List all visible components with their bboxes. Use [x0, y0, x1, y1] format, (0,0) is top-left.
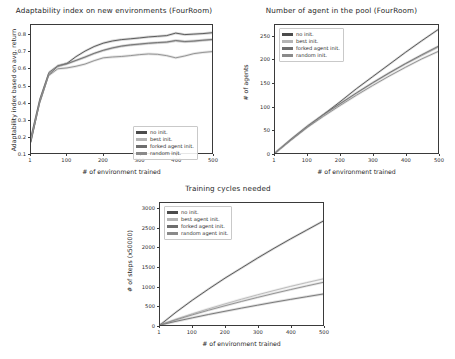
legend-item[interactable]: best init.	[136, 136, 194, 143]
legend-item[interactable]: random agent init.	[167, 230, 228, 237]
y-tick-mark	[157, 228, 159, 229]
x-tick-label: 1	[264, 157, 284, 163]
legend-item[interactable]: random init.	[282, 52, 340, 59]
x-axis-label: # of environment trained	[159, 340, 324, 347]
x-tick-mark	[66, 154, 67, 156]
y-tick-mark	[157, 208, 159, 209]
x-tick-label: 200	[330, 157, 350, 163]
legend-label: random init.	[150, 151, 181, 156]
y-tick-label: 3000	[133, 205, 155, 211]
x-tick-mark	[225, 326, 226, 328]
x-tick-mark	[324, 326, 325, 328]
x-tick-mark	[373, 154, 374, 156]
chart-adaptability-index: Adaptability index on new environments (…	[0, 0, 228, 180]
legend-swatch	[282, 40, 293, 43]
y-tick-label: 0.3	[4, 117, 26, 123]
chart-training-cycles: Training cycles needed # of steps (x5000…	[114, 180, 342, 359]
y-tick-label: 0.7	[4, 48, 26, 54]
x-tick-mark	[30, 154, 31, 156]
y-tick-mark	[28, 34, 30, 35]
legend-swatch	[136, 152, 147, 155]
x-tick-label: 500	[429, 157, 449, 163]
legend-label: forked agent init.	[181, 224, 225, 229]
x-tick-label: 100	[297, 157, 317, 163]
x-tick-mark	[439, 154, 440, 156]
y-tick-label: 0.8	[4, 31, 26, 37]
series-band	[160, 293, 323, 325]
y-tick-label: 1000	[133, 284, 155, 290]
x-tick-label: 200	[215, 329, 235, 335]
legend-swatch	[167, 225, 178, 228]
x-tick-mark	[274, 154, 275, 156]
legend-swatch	[282, 54, 293, 57]
chart-title: Number of agent in the pool (FourRoom)	[228, 6, 455, 15]
legend-item[interactable]: random init.	[136, 150, 194, 157]
legend-item[interactable]: forked agent init.	[282, 45, 340, 52]
y-tick-mark	[157, 247, 159, 248]
x-tick-mark	[307, 154, 308, 156]
series-line	[31, 40, 212, 138]
chart-legend: no init.best agent init.forked agent ini…	[164, 206, 232, 240]
legend-label: best init.	[296, 39, 318, 44]
y-tick-label: 100	[248, 104, 270, 110]
legend-label: forked agent init.	[296, 46, 340, 51]
x-tick-mark	[406, 154, 407, 156]
legend-label: best agent init.	[181, 217, 220, 222]
series-line	[275, 52, 438, 153]
y-tick-mark	[28, 68, 30, 69]
x-tick-mark	[291, 326, 292, 328]
legend-label: no init.	[296, 32, 314, 37]
y-tick-label: 2500	[133, 225, 155, 231]
x-axis-label: # of environment trained	[30, 168, 213, 175]
series-band	[31, 38, 212, 139]
y-tick-label: 1500	[133, 264, 155, 270]
y-tick-label: 500	[133, 303, 155, 309]
x-tick-mark	[159, 326, 160, 328]
legend-label: random agent init.	[181, 231, 228, 236]
x-tick-mark	[103, 154, 104, 156]
y-tick-label: 250	[248, 33, 270, 39]
y-tick-mark	[272, 130, 274, 131]
legend-label: best init.	[150, 137, 172, 142]
x-tick-label: 400	[281, 329, 301, 335]
legend-swatch	[282, 47, 293, 50]
x-tick-mark	[340, 154, 341, 156]
legend-item[interactable]: best agent init.	[167, 216, 228, 223]
x-tick-label: 400	[396, 157, 416, 163]
legend-label: forked agent init.	[150, 144, 194, 149]
legend-item[interactable]: forked agent init.	[167, 223, 228, 230]
y-tick-mark	[28, 103, 30, 104]
y-axis-label: # of steps (x50000)	[126, 206, 133, 316]
chart-title: Adaptability index on new environments (…	[0, 6, 228, 15]
y-tick-label: 50	[248, 127, 270, 133]
chart-agents-in-pool: Number of agent in the pool (FourRoom) #…	[228, 0, 455, 180]
x-tick-label: 300	[363, 157, 383, 163]
y-tick-mark	[28, 51, 30, 52]
y-tick-mark	[28, 137, 30, 138]
legend-label: no init.	[181, 210, 199, 215]
legend-swatch	[167, 218, 178, 221]
x-tick-label: 100	[182, 329, 202, 335]
legend-item[interactable]: forked agent init.	[136, 143, 194, 150]
y-tick-mark	[28, 120, 30, 121]
series-band	[275, 50, 438, 153]
y-tick-mark	[157, 306, 159, 307]
legend-item[interactable]: no init.	[136, 129, 194, 136]
series-band	[31, 38, 212, 137]
y-tick-label: 2000	[133, 244, 155, 250]
y-tick-label: 0.5	[4, 83, 26, 89]
legend-item[interactable]: best init.	[282, 38, 340, 45]
legend-label: random init.	[296, 53, 327, 58]
x-tick-label: 500	[314, 329, 334, 335]
legend-swatch	[136, 138, 147, 141]
series-line	[31, 39, 212, 136]
legend-item[interactable]: no init.	[167, 209, 228, 216]
legend-swatch	[282, 33, 293, 36]
y-tick-label: 0.4	[4, 100, 26, 106]
x-tick-label: 1	[149, 329, 169, 335]
x-tick-mark	[213, 154, 214, 156]
legend-item[interactable]: no init.	[282, 31, 340, 38]
legend-swatch	[167, 232, 178, 235]
y-tick-label: 200	[248, 56, 270, 62]
y-tick-mark	[28, 86, 30, 87]
